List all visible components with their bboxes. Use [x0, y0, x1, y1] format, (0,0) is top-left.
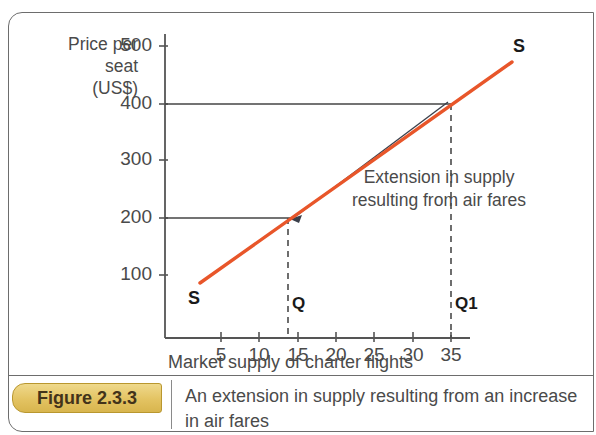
- extension-annotation: Extension in supply resulting from air f…: [352, 166, 526, 212]
- q-label: Q: [292, 294, 305, 314]
- extension-annotation-line-1: Extension in supply: [352, 166, 526, 189]
- y-tick-label-400: 400: [96, 92, 152, 114]
- supply-label-end: S: [513, 36, 525, 57]
- y-axis-ticks: [159, 46, 168, 275]
- figure-caption-text: An extension in supply resulting from an…: [185, 384, 585, 434]
- y-axis-title-line-2: seat: [18, 55, 138, 77]
- extension-annotation-line-2: resulting from air fares: [352, 189, 526, 212]
- q1-label: Q1: [455, 294, 478, 314]
- y-tick-label-100: 100: [96, 263, 152, 285]
- x-axis-title: Market supply of charter flights: [168, 352, 413, 373]
- x-axis-ticks: [221, 332, 451, 342]
- figure-caption-row: Figure 2.3.3 An extension in supply resu…: [9, 380, 594, 432]
- caption-separator: [171, 380, 172, 429]
- y-tick-label-300: 300: [96, 148, 152, 170]
- chart-plot-area: Price per seat (US$) 500 400 300 200 100…: [0, 0, 596, 380]
- figure-number-badge: Figure 2.3.3: [12, 383, 162, 413]
- y-tick-label-200: 200: [96, 206, 152, 228]
- y-tick-label-500: 500: [96, 34, 152, 56]
- supply-label-start: S: [188, 288, 200, 309]
- x-tick-label-35: 35: [431, 344, 471, 366]
